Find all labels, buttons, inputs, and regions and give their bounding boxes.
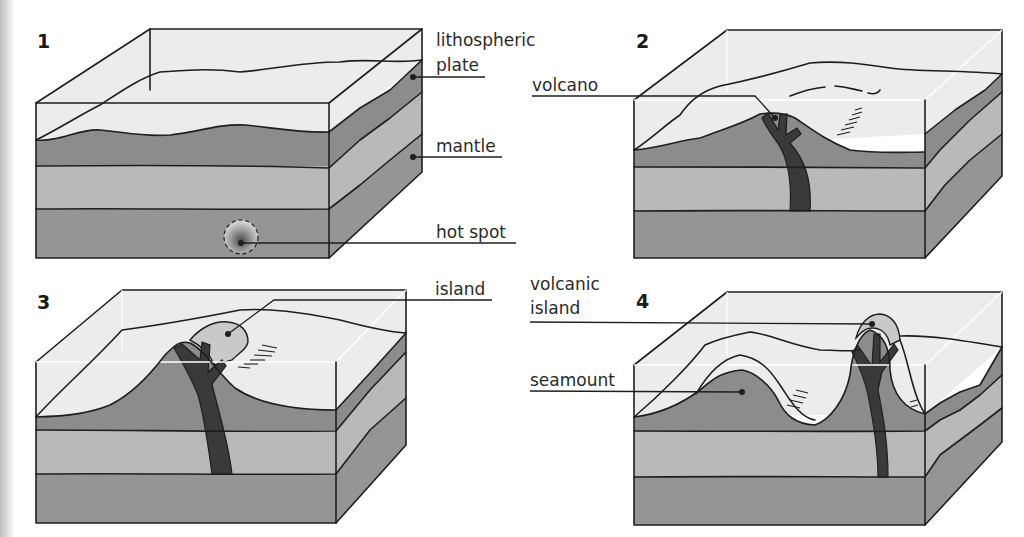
label-mantle: mantle xyxy=(436,136,496,156)
label-hot-spot: hot spot xyxy=(436,222,506,242)
hot-spot-diagram: 1 lithospheric plate mantle hot spot xyxy=(0,0,1024,537)
label-volcano: volcano xyxy=(532,75,598,95)
label-volcanic: volcanic xyxy=(530,274,600,294)
label-island: island xyxy=(435,279,485,299)
panel-1: 1 lithospheric plate mantle hot spot xyxy=(36,29,535,258)
panel-2: 2 volcano xyxy=(532,30,1002,258)
panel-3: 3 island xyxy=(36,279,492,523)
hot-spot-glow xyxy=(224,220,258,254)
label-plate: plate xyxy=(436,55,479,75)
label-seamount: seamount xyxy=(530,370,615,390)
label-volcanic-island: island xyxy=(530,298,580,318)
panel-4: 4 volcanic island seamount xyxy=(530,274,1002,525)
label-lithospheric: lithospheric xyxy=(436,30,535,50)
panel-4-number: 4 xyxy=(636,290,649,312)
panel-1-upper-mantle-front xyxy=(36,166,329,209)
panel-1-lower-mantle-front xyxy=(36,209,329,258)
panel-3-number: 3 xyxy=(37,291,50,313)
panel-1-number: 1 xyxy=(37,30,50,52)
panel-2-number: 2 xyxy=(636,30,649,52)
